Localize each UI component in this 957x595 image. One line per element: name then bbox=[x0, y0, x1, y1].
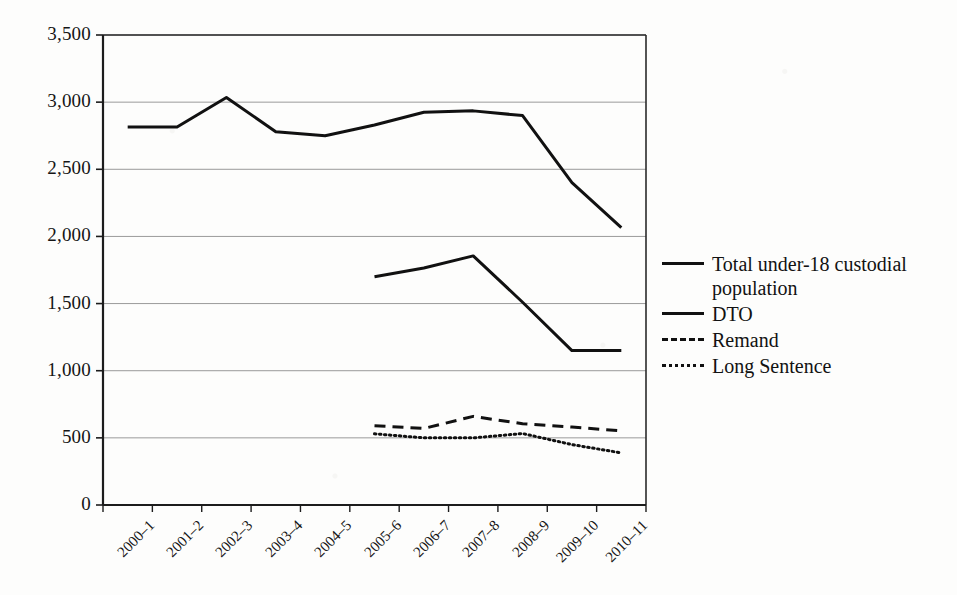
legend-label: Total under-18 custodial population bbox=[712, 252, 952, 300]
legend-swatch-solid-icon bbox=[662, 302, 704, 324]
legend-item[interactable]: Total under-18 custodial population bbox=[662, 252, 952, 300]
legend-item[interactable]: DTO bbox=[662, 302, 952, 326]
legend-swatch-dotted-icon bbox=[662, 354, 704, 376]
legend-item[interactable]: Long Sentence bbox=[662, 354, 952, 378]
chart-legend: Total under-18 custodial population DTO … bbox=[662, 252, 952, 380]
legend-swatch-solid-icon bbox=[662, 252, 704, 274]
legend-label: DTO bbox=[712, 302, 753, 326]
legend-label: Remand bbox=[712, 328, 779, 352]
series-line-3 bbox=[375, 434, 622, 453]
legend-label: Long Sentence bbox=[712, 354, 831, 378]
legend-item[interactable]: Remand bbox=[662, 328, 952, 352]
series-line-2 bbox=[375, 416, 622, 431]
chart-figure: 05001,0001,5002,0002,5003,0003,500 2000–… bbox=[0, 0, 957, 595]
series-line-0 bbox=[128, 97, 622, 227]
legend-swatch-dashed-icon bbox=[662, 328, 704, 350]
